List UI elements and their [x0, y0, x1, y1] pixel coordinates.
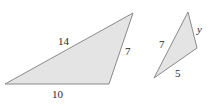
large-triangle-shape [5, 13, 133, 84]
small-triangle-side-y: y [196, 23, 202, 35]
large-triangle-side-14: 14 [58, 35, 70, 47]
small-triangle: 7 y 5 [154, 12, 202, 79]
large-triangle-side-7: 7 [125, 45, 131, 57]
small-triangle-side-5: 5 [175, 67, 181, 79]
small-triangle-side-7: 7 [159, 38, 165, 50]
similar-triangles-diagram: 14 7 10 7 y 5 [0, 0, 214, 106]
large-triangle-side-10: 10 [52, 88, 64, 100]
large-triangle: 14 7 10 [5, 13, 133, 100]
